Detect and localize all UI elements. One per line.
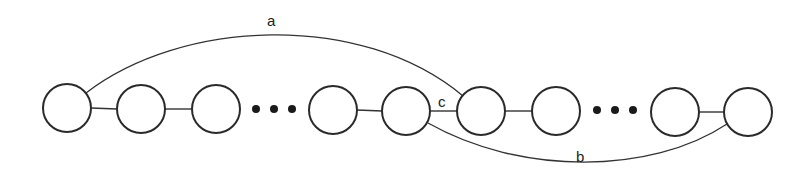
node-8 xyxy=(651,88,699,136)
edge-n1-n2 xyxy=(91,108,117,109)
node-6 xyxy=(457,87,505,135)
ellipsis-left xyxy=(252,105,296,113)
ellipsis-right xyxy=(593,106,637,114)
edge-label-a: a xyxy=(267,12,276,29)
node-4 xyxy=(309,86,357,134)
node-2 xyxy=(117,85,165,133)
edge-label-c: c xyxy=(438,93,446,110)
node-5 xyxy=(382,87,430,135)
node-3 xyxy=(192,85,240,133)
node-1 xyxy=(43,84,91,132)
node-9 xyxy=(724,88,772,136)
graph-diagram: a c b xyxy=(0,0,811,172)
edge-n4-n5 xyxy=(357,110,382,111)
node-7 xyxy=(532,87,580,135)
edge-label-b: b xyxy=(576,148,584,165)
